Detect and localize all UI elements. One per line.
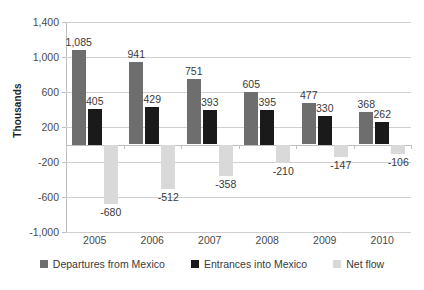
bar [276, 145, 290, 163]
bar [203, 110, 217, 144]
bar [391, 145, 405, 154]
data-label: 941 [114, 48, 158, 60]
x-axis-tick-label: 2008 [239, 234, 297, 246]
data-label: 751 [172, 65, 216, 77]
legend-item[interactable]: Net flow [333, 258, 384, 270]
bar [375, 122, 389, 145]
data-label: 330 [303, 102, 347, 114]
data-label: 605 [229, 78, 273, 90]
data-label: 393 [188, 96, 232, 108]
chart-legend: Departures from MexicoEntrances into Mex… [0, 258, 424, 270]
gridline [66, 232, 411, 233]
bar [145, 107, 159, 145]
bar-group: 941429-5122006 [124, 22, 182, 232]
bar-group: 477330-1472009 [296, 22, 354, 232]
y-axis-title: Thousands [12, 61, 23, 161]
bar [187, 79, 201, 145]
x-axis-tick-mark [411, 145, 412, 149]
bar [88, 109, 102, 144]
data-label: 477 [287, 89, 331, 101]
data-label: 405 [73, 95, 117, 107]
x-axis-tick-label: 2009 [296, 234, 354, 246]
legend-item[interactable]: Entrances into Mexico [191, 258, 307, 270]
bar [318, 116, 332, 145]
y-axis-tick-label: 1,400 [33, 16, 59, 28]
legend-item[interactable]: Departures from Mexico [40, 258, 165, 270]
legend-swatch-icon [333, 260, 341, 268]
bar-group: 751393-3582007 [181, 22, 239, 232]
bar [219, 145, 233, 176]
x-axis-tick-label: 2006 [124, 234, 182, 246]
legend-label: Entrances into Mexico [204, 258, 307, 270]
y-axis-tick-label: 1,000 [33, 51, 59, 63]
data-label: 395 [245, 96, 289, 108]
legend-label: Net flow [346, 258, 384, 270]
bar [104, 145, 118, 205]
y-axis-tick-label: -600 [38, 191, 59, 203]
y-axis-tick-label: 600 [41, 86, 59, 98]
data-label: 1,085 [57, 36, 101, 48]
plot-area: 1,4001,000600200-200-600-1,0001,085405-6… [66, 22, 411, 232]
y-axis-tick-label: -1,000 [29, 226, 59, 238]
bar [260, 110, 274, 145]
y-axis-tick-label: 200 [41, 121, 59, 133]
x-axis-tick-label: 2010 [354, 234, 412, 246]
x-axis-tick-label: 2005 [66, 234, 124, 246]
legend-label: Departures from Mexico [53, 258, 165, 270]
bar [161, 145, 175, 190]
data-label: -106 [376, 156, 420, 168]
data-label: 429 [130, 93, 174, 105]
legend-swatch-icon [191, 260, 199, 268]
bar-group: 368262-1062010 [354, 22, 412, 232]
bar-chart: Thousands 1,4001,000600200-200-600-1,000… [0, 0, 424, 290]
x-axis-tick-label: 2007 [181, 234, 239, 246]
y-axis-tick-label: -200 [38, 156, 59, 168]
legend-swatch-icon [40, 260, 48, 268]
data-label: 262 [360, 108, 404, 120]
bar-group: 605395-2102008 [239, 22, 297, 232]
y-axis-tick-mark [62, 232, 66, 233]
bar [334, 145, 348, 158]
